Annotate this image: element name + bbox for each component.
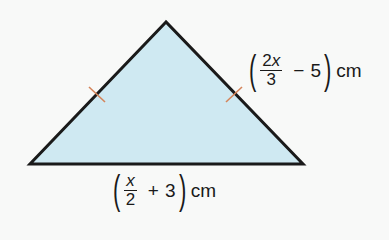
triangle	[30, 22, 303, 164]
base-length-label: ( x 2 + 3 ) cm	[110, 170, 216, 210]
constant: 3	[165, 181, 176, 200]
open-paren: (	[249, 50, 256, 90]
numerator: x	[124, 172, 137, 191]
unit: cm	[336, 61, 361, 80]
fraction: 2x 3	[260, 52, 282, 89]
unit: cm	[191, 181, 216, 200]
denominator: 2	[126, 191, 135, 209]
constant: 5	[310, 61, 321, 80]
denominator: 3	[267, 71, 276, 89]
close-paren: )	[179, 170, 186, 210]
fraction: x 2	[124, 172, 137, 209]
right-side-length-label: ( 2x 3 − 5 ) cm	[246, 50, 362, 90]
operator: −	[293, 61, 304, 80]
numerator: 2x	[260, 52, 282, 71]
open-paren: (	[113, 170, 120, 210]
close-paren: )	[324, 50, 331, 90]
operator: +	[148, 181, 159, 200]
